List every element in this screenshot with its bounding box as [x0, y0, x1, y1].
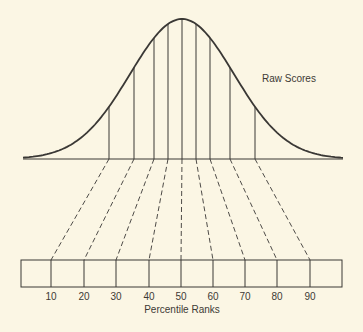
- normal-curve-percentile-diagram: 102030405060708090 Raw Scores Percentile…: [0, 0, 363, 332]
- mapping-dashed-line: [196, 159, 213, 260]
- percentile-tick-label: 60: [207, 291, 219, 302]
- mapping-dashed-line: [210, 159, 245, 260]
- mapping-dashed-line: [51, 159, 109, 260]
- mapping-dashed-line: [230, 159, 277, 260]
- mapping-dashed-line: [149, 159, 168, 260]
- mapping-dashed-line: [255, 159, 310, 260]
- mapping-dashed-lines: [51, 159, 310, 260]
- bell-curve-line: [23, 19, 343, 158]
- percentile-ranks-label: Percentile Ranks: [144, 304, 220, 315]
- percentile-tick-label: 30: [110, 291, 122, 302]
- percentile-tick-label: 10: [45, 291, 57, 302]
- normal-curve: [23, 19, 343, 159]
- percentile-tick-label: 70: [239, 291, 251, 302]
- percentile-tick-label: 40: [143, 291, 155, 302]
- mapping-dashed-line: [84, 159, 134, 260]
- raw-score-dividers: [109, 19, 255, 159]
- percentile-tick-label: 90: [304, 291, 316, 302]
- percentile-tick-label: 50: [175, 291, 187, 302]
- mapping-dashed-line: [116, 159, 154, 260]
- percentile-tick-label: 80: [271, 291, 283, 302]
- percentile-tick-labels: 102030405060708090: [45, 291, 316, 302]
- mapping-dashed-line: [181, 159, 182, 260]
- percentile-tick-label: 20: [78, 291, 90, 302]
- percentile-rank-bar: [21, 260, 342, 287]
- raw-scores-label: Raw Scores: [262, 73, 316, 84]
